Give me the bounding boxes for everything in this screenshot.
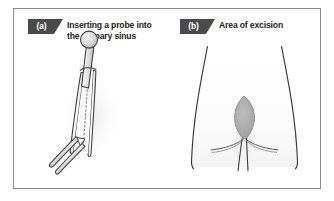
figure-container: (a) Inserting a probe into the primary s… [0, 0, 334, 201]
body-outline-right [282, 47, 298, 169]
badge-b: (b) [180, 19, 206, 34]
area-of-excision-illustration [167, 9, 322, 188]
gluteal-fold-left [211, 140, 243, 150]
gluteal-fold-right [246, 140, 278, 150]
badge-a: (a) [28, 19, 54, 34]
insertion-arrowhead [77, 138, 85, 146]
gluteal-fold-left-lower [212, 142, 242, 153]
probe-rod [82, 45, 94, 89]
body-outline-left [191, 47, 207, 169]
badge-a-tail [54, 19, 63, 34]
tract-soft-shadow [62, 64, 121, 167]
tract-opening-lip [80, 68, 96, 71]
caption-b: (b) Area of excision [180, 19, 283, 34]
natal-cleft-line-left [238, 139, 242, 171]
badge-b-tail [206, 19, 215, 34]
body-fill [192, 47, 298, 168]
gluteal-fold-right-lower [247, 142, 277, 153]
sinus-tract-tube [70, 72, 84, 154]
natal-cleft-line-right [246, 139, 247, 171]
caption-b-text: Area of excision [219, 19, 283, 31]
caption-a: (a) Inserting a probe into the primary s… [28, 19, 152, 42]
panel-a: (a) Inserting a probe into the primary s… [14, 9, 167, 188]
excision-edge-scallop [236, 96, 253, 112]
caption-a-text: Inserting a probe into the primary sinus [67, 19, 152, 42]
secondary-tract-lower-wall [55, 143, 85, 173]
secondary-tract-opening [50, 137, 80, 168]
figure-frame: (a) Inserting a probe into the primary s… [13, 8, 321, 189]
panel-b: (b) Area of excision [167, 9, 322, 188]
dotted-probe-path [83, 78, 88, 147]
excision-ellipse [235, 96, 255, 139]
natal-cleft-shading [232, 126, 255, 170]
sinus-tract-tube-right-wall [88, 70, 96, 156]
sinus-tract-lumen [74, 70, 93, 153]
